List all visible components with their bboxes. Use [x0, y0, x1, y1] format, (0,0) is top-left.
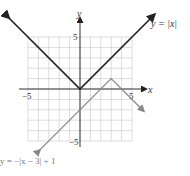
y-tick-pos5: 5: [73, 32, 78, 42]
y-axis-label: y: [76, 8, 82, 19]
y-tick-neg5: −5: [69, 137, 79, 147]
graph: x y −5 5 5 −5 y = |x| y = −|x − 3| + 1: [0, 0, 190, 176]
x-axis-label: x: [147, 84, 153, 95]
curve1-label: y = |x|: [150, 18, 177, 29]
curve2-label: y = −|x − 3| + 1: [0, 156, 55, 166]
x-tick-neg5: −5: [22, 91, 32, 101]
